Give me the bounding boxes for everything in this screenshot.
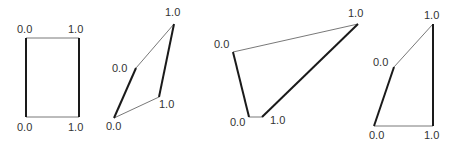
label-bottom-right: 1.0 — [270, 114, 285, 126]
shape-skewed-quad-1: 0.0 1.0 0.0 1.0 — [106, 6, 180, 132]
label-top-left: 0.0 — [112, 62, 127, 74]
label-top-right: 1.0 — [165, 6, 180, 18]
shape-skewed-quad-3: 0.0 1.0 0.0 1.0 — [369, 9, 439, 141]
label-top-left: 0.0 — [373, 56, 388, 68]
label-bottom-left: 0.0 — [17, 121, 32, 133]
shape-skewed-quad-2: 0.0 1.0 0.0 1.0 — [214, 7, 363, 128]
label-top-left: 0.0 — [17, 23, 32, 35]
edge-left — [114, 68, 136, 118]
quad-diagram: 0.0 1.0 0.0 1.0 0.0 1.0 0.0 1.0 0.0 1.0 … — [0, 0, 458, 145]
label-top-left: 0.0 — [214, 38, 229, 50]
label-bottom-right: 1.0 — [424, 129, 439, 141]
edge-right — [159, 24, 174, 97]
edge-left — [374, 67, 394, 126]
edge-top — [136, 24, 174, 68]
edge-left — [233, 52, 249, 117]
edge-right — [262, 24, 358, 117]
label-bottom-right: 1.0 — [68, 121, 83, 133]
label-bottom-left: 0.0 — [369, 129, 384, 141]
label-top-right: 1.0 — [424, 9, 439, 21]
label-bottom-left: 0.0 — [106, 120, 121, 132]
label-top-right: 1.0 — [68, 23, 83, 35]
label-bottom-right: 1.0 — [159, 98, 174, 110]
edge-top — [233, 24, 358, 52]
shape-rectangle: 0.0 1.0 0.0 1.0 — [17, 23, 83, 133]
label-top-right: 1.0 — [348, 7, 363, 19]
edge-bottom — [114, 97, 159, 118]
label-bottom-left: 0.0 — [230, 116, 245, 128]
edge-top — [394, 24, 433, 67]
